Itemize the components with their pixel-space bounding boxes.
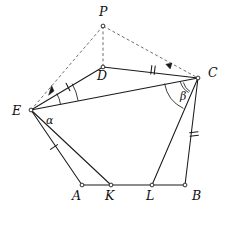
label-B: B <box>191 188 201 203</box>
label-L: L <box>145 188 154 203</box>
angle-alpha-arc <box>57 94 61 105</box>
tick-marks-group <box>51 66 199 150</box>
edge-P-C <box>103 26 198 78</box>
vertex-dot-P <box>101 24 105 28</box>
label-A: A <box>71 188 81 203</box>
solid-edges-group <box>31 67 198 185</box>
vertex-dot-L <box>150 183 154 187</box>
vertex-dot-E <box>29 108 33 112</box>
label-E: E <box>11 103 21 118</box>
arrowhead-C-arc <box>166 63 172 69</box>
diagram-canvas: P D C E A K L B α β <box>0 0 230 228</box>
vertex-dot-K <box>109 183 113 187</box>
vertex-dot-B <box>183 183 187 187</box>
vertex-dot-C <box>196 76 200 80</box>
arc-E-outer <box>72 84 78 101</box>
edge-E-K <box>31 110 111 185</box>
label-P: P <box>98 4 108 19</box>
label-K: K <box>104 188 115 203</box>
arrowhead-E-arc <box>49 86 54 96</box>
label-C: C <box>208 65 218 80</box>
vertex-dot-A <box>80 183 84 187</box>
label-angle-beta: β <box>179 90 186 103</box>
label-D: D <box>96 68 107 83</box>
angle-arcs-group <box>57 82 190 109</box>
label-angle-alpha: α <box>46 114 54 127</box>
edge-E-A <box>31 110 82 185</box>
geometry-figure: P D C E A K L B α β <box>0 0 230 228</box>
edge-P-E <box>31 26 103 110</box>
edge-E-C <box>31 78 198 110</box>
angle-labels-group: α β <box>46 90 186 127</box>
